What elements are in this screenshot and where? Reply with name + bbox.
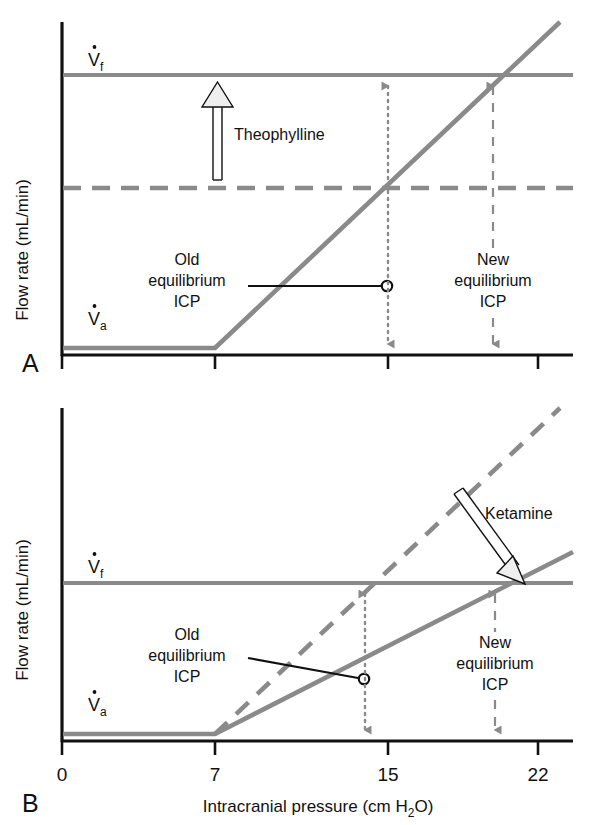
panel-b-old-eq-line2: equilibrium <box>148 647 225 664</box>
svg-text:V: V <box>88 695 100 715</box>
figure-root: Flow rate (mL/min) Theophylline V <box>0 0 600 825</box>
svg-text:V: V <box>88 309 100 329</box>
panel-a-new-eq-line3: ICP <box>480 293 507 310</box>
panel-b-letter: B <box>22 789 39 817</box>
panel-a-new-eq-line1: New <box>477 251 509 268</box>
panel-a-letter: A <box>22 349 39 377</box>
x-tick-label-22: 22 <box>527 764 548 785</box>
x-axis-label-post: O) <box>414 797 433 816</box>
panel-b-new-eq-line1: New <box>479 634 511 651</box>
svg-text:V: V <box>88 50 100 70</box>
panel-b-y-axis-label: Flow rate (mL/min) <box>13 539 32 681</box>
svg-text:a: a <box>100 705 107 719</box>
panel-b-new-eq-line2: equilibrium <box>456 655 533 672</box>
panel-a-new-eq-line2: equilibrium <box>454 272 531 289</box>
panel-a-y-axis-label: Flow rate (mL/min) <box>13 179 32 321</box>
panel-b-old-eq-line3: ICP <box>174 668 201 685</box>
panel-b-new-eq-line3: ICP <box>482 676 509 693</box>
panel-a-old-eq-line1: Old <box>175 251 200 268</box>
panel-b-old-eq-line1: Old <box>175 626 200 643</box>
x-axis-label-pre: Intracranial pressure (cm H <box>203 797 408 816</box>
icp-flow-rate-figure: Flow rate (mL/min) Theophylline V <box>0 0 600 825</box>
x-tick-label-15: 15 <box>377 764 398 785</box>
x-tick-label-7: 7 <box>210 764 221 785</box>
panel-a-old-eq-line2: equilibrium <box>148 272 225 289</box>
panel-a-theophylline-label: Theophylline <box>234 126 325 143</box>
svg-text:V: V <box>88 557 100 577</box>
panel-a-old-eq-line3: ICP <box>174 293 201 310</box>
svg-text:a: a <box>100 319 107 333</box>
x-tick-label-0: 0 <box>57 764 68 785</box>
panel-b-ketamine-label: Ketamine <box>485 505 553 522</box>
